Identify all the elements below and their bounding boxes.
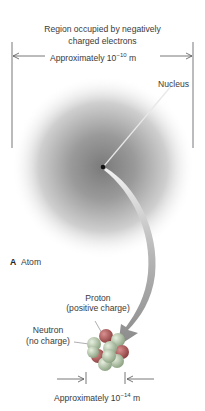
neutron-label: Neutron [20,325,76,335]
nucleus-label: Nucleus [158,79,189,89]
panel-title: A Atom [10,257,41,267]
electron-region-size: Approximately 10−10 m [50,50,136,63]
nucleus-size: Approximately 10−14 m [54,390,140,403]
panel-title-text: Atom [21,257,41,267]
size-unit: m [131,393,141,403]
size-prefix: Approximately 10 [54,393,120,403]
nucleus-dot [101,165,106,170]
size-exponent: −14 [120,392,130,398]
neutron-leader-line [74,342,89,344]
electron-region-label-line2: charged electrons [0,36,205,46]
size-unit: m [127,53,137,63]
proton-detail: (positive charge) [58,303,138,313]
electron-region-label-line1: Region occupied by negatively [0,24,205,34]
size-prefix: Approximately 10 [50,53,116,63]
nucleus-cluster [87,329,129,371]
neutron-detail: (no charge) [20,336,76,346]
nucleus-dimension [57,372,154,384]
panel-letter: A [10,257,16,267]
proton-label: Proton [58,293,138,303]
size-exponent: −10 [116,52,126,58]
